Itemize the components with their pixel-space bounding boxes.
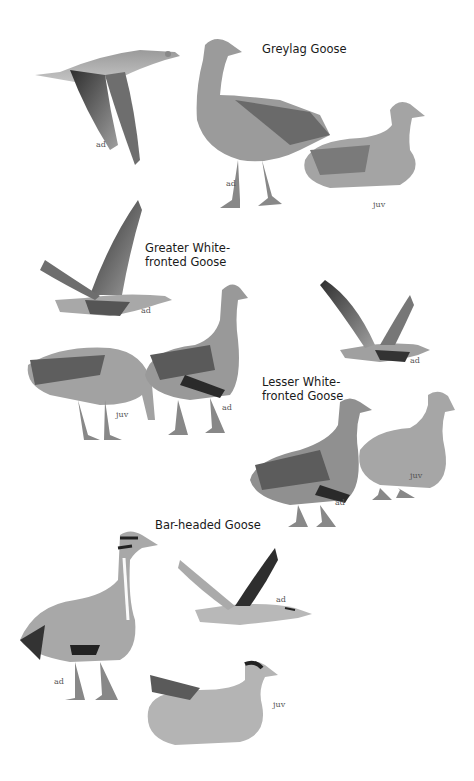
age-label-greylag-standing: ad — [226, 179, 236, 188]
species-title-greater-whitefronted: Greater White- fronted Goose — [145, 241, 230, 269]
greylag-flight-figure — [35, 50, 180, 165]
bar-headed-sitting-juv-figure — [148, 662, 278, 746]
goose-illustrations — [0, 0, 474, 781]
greater-whitefronted-feeding-juv-figure — [28, 348, 155, 440]
lesser-whitefronted-standing-juv-figure — [359, 392, 455, 500]
greylag-sitting-figure — [304, 102, 425, 188]
age-label-greater-whitefronted-flight: ad — [141, 306, 151, 315]
age-label-greylag-sitting: juv — [373, 200, 385, 209]
age-label-greater-whitefronted-juv: juv — [116, 410, 128, 419]
species-title-lesser-whitefronted: Lesser White- fronted Goose — [262, 375, 343, 403]
lesser-whitefronted-flight-figure — [320, 280, 430, 362]
age-label-bar-headed-sitting: juv — [273, 700, 285, 709]
greylag-standing-figure — [197, 39, 330, 208]
age-label-lesser-whitefronted-ad: ad — [335, 498, 345, 507]
age-label-greylag-flight: ad — [96, 140, 106, 149]
age-label-bar-headed-standing: ad — [54, 677, 64, 686]
species-title-greylag: Greylag Goose — [262, 42, 347, 56]
greater-whitefronted-standing-ad-figure — [145, 284, 248, 435]
age-label-bar-headed-flight: ad — [276, 595, 286, 604]
lesser-whitefronted-standing-ad-figure — [250, 399, 372, 528]
species-title-bar-headed: Bar-headed Goose — [155, 518, 261, 532]
field-guide-plate: Greylag Goose Greater White- fronted Goo… — [0, 0, 474, 781]
age-label-lesser-whitefronted-juv: juv — [410, 471, 422, 480]
bar-headed-flight-figure — [178, 548, 312, 625]
age-label-greater-whitefronted-ad: ad — [222, 403, 232, 412]
bar-headed-standing-ad-figure — [20, 532, 158, 701]
age-label-lesser-whitefronted-flight: ad — [410, 356, 420, 365]
